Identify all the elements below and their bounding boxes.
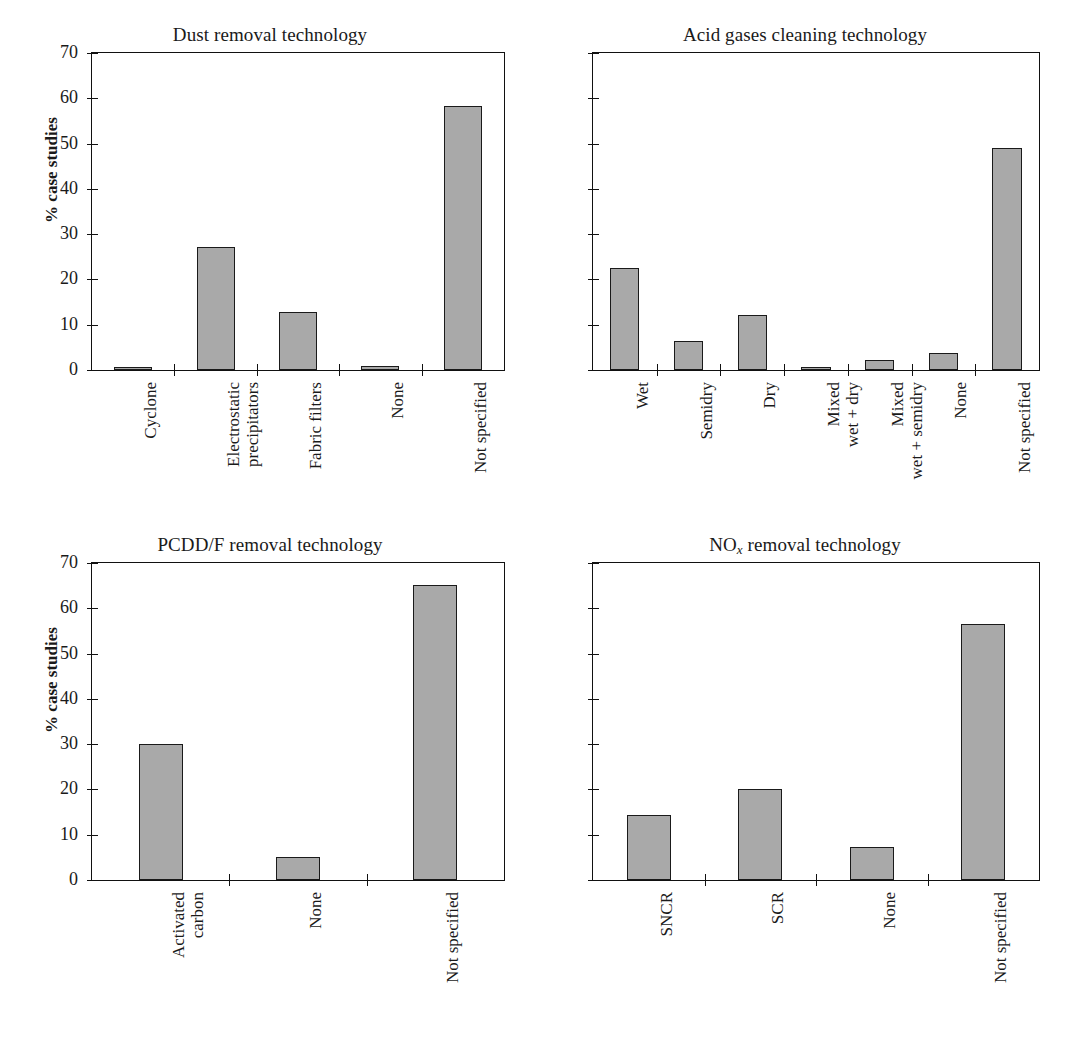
bar bbox=[279, 312, 317, 370]
x-axis-label: Not specified bbox=[991, 892, 1010, 1042]
y-axis-title: % case studies bbox=[42, 600, 62, 760]
panel-title-suffix: removal technology bbox=[743, 534, 901, 555]
y-axis-tick-label: 60 bbox=[60, 87, 78, 108]
y-axis-tick-label: 10 bbox=[60, 314, 78, 335]
x-axis-labels-pcdd: Activated carbonNoneNot specified bbox=[91, 886, 505, 1036]
x-axis-label: None bbox=[880, 892, 899, 1042]
x-axis-label: Fabric filters bbox=[306, 382, 325, 532]
bar bbox=[197, 247, 235, 370]
figure-multi-bar-charts: Dust removal technology % case studies 0… bbox=[0, 0, 1073, 1049]
y-axis-tick-label: 0 bbox=[69, 869, 78, 890]
y-axis-tick-label: 10 bbox=[60, 824, 78, 845]
x-axis-tick bbox=[657, 364, 658, 376]
panel-title: NOx removal technology bbox=[555, 534, 1055, 558]
x-axis-tick bbox=[367, 874, 368, 886]
panel-acid-gases-cleaning-technology: Acid gases cleaning technology WetSemidr… bbox=[555, 10, 1055, 510]
x-axis-tick bbox=[174, 364, 175, 376]
plot-area-nox bbox=[592, 562, 1040, 881]
y-axis-tick-label: 40 bbox=[60, 688, 78, 709]
bar-series-nox bbox=[593, 563, 1039, 880]
y-axis-tick-label: 50 bbox=[60, 133, 78, 154]
x-axis-labels-dust: CycloneElectrostatic precipitatorsFabric… bbox=[91, 376, 505, 526]
plot-area-pcdd: 010203040506070 bbox=[91, 562, 505, 881]
panel-title-prefix: NO bbox=[709, 534, 737, 555]
y-axis-title: % case studies bbox=[42, 90, 62, 250]
y-axis-tick: 0 bbox=[87, 370, 98, 371]
x-axis-label: None bbox=[388, 382, 407, 532]
bar-series-acid bbox=[593, 53, 1039, 370]
bar bbox=[674, 341, 703, 370]
bar bbox=[114, 367, 152, 370]
x-axis-label: SNCR bbox=[657, 892, 676, 1042]
y-axis-tick-label: 20 bbox=[60, 268, 78, 289]
y-axis-tick-label: 0 bbox=[69, 359, 78, 380]
bar bbox=[361, 366, 399, 370]
x-axis-label: Electrostatic precipitators bbox=[224, 382, 262, 532]
x-axis-tick bbox=[848, 364, 849, 376]
bar bbox=[413, 585, 457, 880]
x-axis-tick bbox=[257, 364, 258, 376]
bar-series-pcdd bbox=[92, 563, 504, 880]
plot-area-dust: 010203040506070 bbox=[91, 52, 505, 371]
x-axis-label: Semidry bbox=[697, 382, 716, 532]
x-axis-tick bbox=[229, 874, 230, 886]
x-axis-label: None bbox=[306, 892, 325, 1042]
y-axis-tick-label: 40 bbox=[60, 178, 78, 199]
bar bbox=[961, 624, 1005, 880]
y-axis-tick-label: 50 bbox=[60, 643, 78, 664]
panel-pcddf-removal-technology: PCDD/F removal technology % case studies… bbox=[20, 520, 520, 1020]
plot-area-acid bbox=[592, 52, 1040, 371]
bar bbox=[627, 815, 671, 880]
x-axis-tick bbox=[975, 364, 976, 376]
panel-nox-removal-technology: NOx removal technology SNCRSCRNoneNot sp… bbox=[555, 520, 1055, 1020]
y-axis-tick bbox=[588, 880, 599, 881]
bar bbox=[738, 315, 767, 370]
y-axis-tick bbox=[588, 370, 599, 371]
y-axis-tick-label: 30 bbox=[60, 733, 78, 754]
bar bbox=[444, 106, 482, 370]
bar bbox=[801, 367, 830, 370]
x-axis-label: Not specified bbox=[443, 892, 462, 1042]
y-axis-tick-label: 30 bbox=[60, 223, 78, 244]
bar bbox=[276, 857, 320, 880]
x-axis-label: Mixed wet + semidry bbox=[888, 382, 926, 532]
bar bbox=[992, 148, 1021, 370]
bar bbox=[865, 360, 894, 370]
y-axis-tick: 0 bbox=[87, 880, 98, 881]
bar-series-dust bbox=[92, 53, 504, 370]
x-axis-tick bbox=[705, 874, 706, 886]
panel-title: PCDD/F removal technology bbox=[20, 534, 520, 556]
x-axis-tick bbox=[422, 364, 423, 376]
x-axis-label: None bbox=[951, 382, 970, 532]
x-axis-label: Activated carbon bbox=[169, 892, 207, 1042]
x-axis-label: SCR bbox=[768, 892, 787, 1042]
y-axis-tick-label: 70 bbox=[60, 552, 78, 573]
bar bbox=[738, 789, 782, 880]
bar bbox=[929, 353, 958, 370]
x-axis-tick bbox=[928, 874, 929, 886]
x-axis-label: Not specified bbox=[1015, 382, 1034, 532]
x-axis-tick bbox=[816, 874, 817, 886]
panel-title: Dust removal technology bbox=[20, 24, 520, 46]
y-axis-tick-label: 20 bbox=[60, 778, 78, 799]
bar bbox=[610, 268, 639, 370]
x-axis-label: Wet bbox=[633, 382, 652, 532]
x-axis-tick bbox=[912, 364, 913, 376]
y-axis-tick-label: 70 bbox=[60, 42, 78, 63]
y-axis-tick-label: 60 bbox=[60, 597, 78, 618]
x-axis-labels-acid: WetSemidryDryMixed wet + dryMixed wet + … bbox=[592, 376, 1040, 526]
bar bbox=[139, 744, 183, 880]
bar bbox=[850, 847, 894, 880]
panel-title: Acid gases cleaning technology bbox=[555, 24, 1055, 46]
x-axis-label: Dry bbox=[760, 382, 779, 532]
panel-dust-removal-technology: Dust removal technology % case studies 0… bbox=[20, 10, 520, 510]
x-axis-tick bbox=[339, 364, 340, 376]
x-axis-label: Mixed wet + dry bbox=[824, 382, 862, 532]
x-axis-label: Cyclone bbox=[141, 382, 160, 532]
x-axis-labels-nox: SNCRSCRNoneNot specified bbox=[592, 886, 1040, 1036]
x-axis-tick bbox=[720, 364, 721, 376]
x-axis-label: Not specified bbox=[471, 382, 490, 532]
x-axis-tick bbox=[784, 364, 785, 376]
